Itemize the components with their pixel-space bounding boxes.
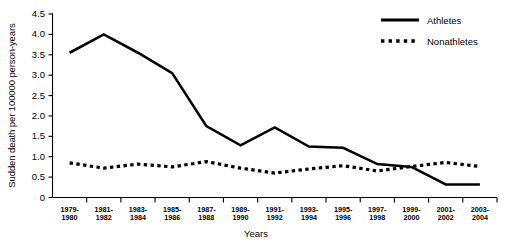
axis-lines [53, 13, 498, 198]
series-line-athletes [70, 34, 480, 184]
series-lines [70, 34, 480, 184]
plot-area [0, 0, 512, 247]
sudden-death-line-chart: Sudden death per 100000 person-years 00.… [0, 0, 512, 247]
